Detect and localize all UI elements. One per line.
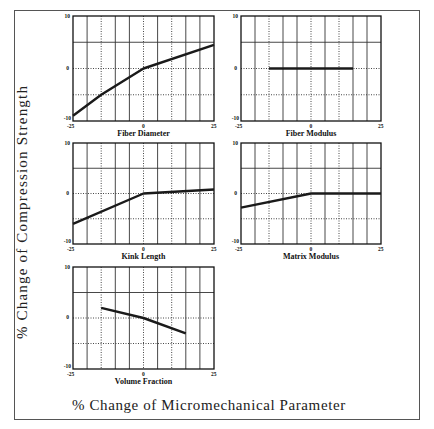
x-tick-min: -25 [67,246,74,252]
plot-area [73,16,214,121]
y-tick-max: 10 [65,264,71,270]
panel-volume-fraction: 100-10-25025Volume Fraction [73,267,214,369]
plot-area [73,267,214,369]
panel-title: Kink Length [122,252,166,261]
x-tick-max: 25 [378,123,384,129]
y-tick-max: 10 [65,13,71,19]
y-tick-zero: 0 [66,190,69,196]
plot-area [241,16,381,121]
x-tick-max: 25 [211,371,217,377]
panel-title: Fiber Modulus [286,129,337,138]
panel-title: Fiber Diameter [117,129,170,138]
x-tick-min: -25 [235,123,242,129]
x-tick-min: -25 [67,123,74,129]
plot-area [73,143,214,244]
data-line [101,308,186,334]
y-tick-zero: 0 [66,65,69,71]
y-tick-max: 10 [233,140,239,146]
x-tick-min: -25 [67,371,74,377]
y-axis-label: % Change of Compression Strength [14,85,31,339]
panel-matrix-modulus: 100-10-25025Matrix Modulus [241,143,381,244]
data-line [73,45,214,116]
panel-title: Volume Fraction [115,377,172,386]
y-tick-max: 10 [233,13,239,19]
panel-title: Matrix Modulus [283,252,339,261]
x-tick-max: 25 [211,123,217,129]
y-tick-min: -10 [64,238,71,244]
y-tick-min: -10 [64,115,71,121]
x-tick-max: 25 [378,246,384,252]
y-tick-zero: 0 [66,314,69,320]
y-tick-max: 10 [65,140,71,146]
y-tick-min: -10 [64,363,71,369]
x-tick-min: -25 [235,246,242,252]
y-tick-zero: 0 [234,65,237,71]
plot-area [241,143,381,244]
panel-fiber-modulus: 100-10-25025Fiber Modulus [241,16,381,121]
y-tick-min: -10 [232,238,239,244]
x-tick-max: 25 [211,246,217,252]
x-axis-label: % Change of Micromechanical Parameter [72,397,346,414]
panel-fiber-diameter: 100-10-25025Fiber Diameter [73,16,214,121]
y-tick-zero: 0 [234,190,237,196]
y-tick-min: -10 [232,115,239,121]
panel-kink-length: 100-10-25025Kink Length [73,143,214,244]
